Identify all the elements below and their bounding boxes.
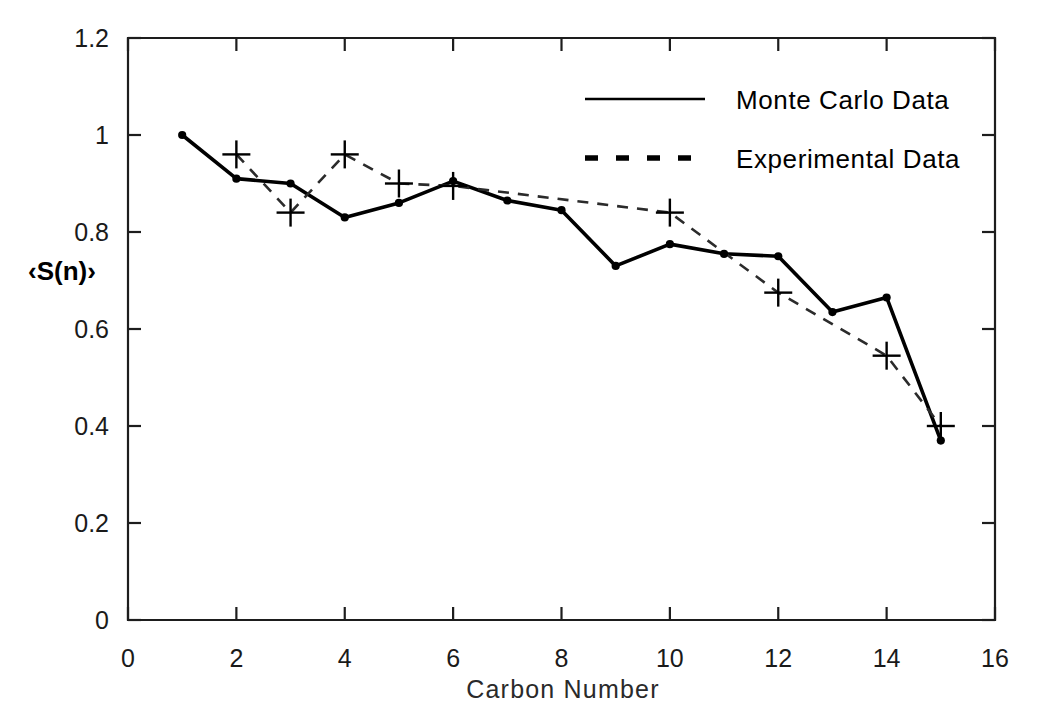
marker-0-0 <box>178 131 186 139</box>
legend-label-experimental: Experimental Data <box>736 144 960 174</box>
y-tick-label-3: 0.6 <box>74 315 109 343</box>
y-tick-label-4: 0.8 <box>74 218 109 246</box>
x-axis-ticks <box>128 38 995 620</box>
chart-canvas: 0246810121416 00.20.40.60.811.2 Carbon N… <box>0 0 1042 726</box>
series-line-0 <box>182 135 941 441</box>
marker-0-3 <box>341 213 349 221</box>
plot-frame <box>128 38 995 620</box>
marker-0-9 <box>666 240 674 248</box>
data-series-layer <box>182 135 941 441</box>
y-tick-label-2: 0.4 <box>74 412 109 440</box>
x-tick-label-5: 10 <box>656 644 684 672</box>
y-axis-tick-labels: 00.20.40.60.811.2 <box>74 24 109 634</box>
chart-figure: 0246810121416 00.20.40.60.811.2 Carbon N… <box>0 0 1042 726</box>
marker-0-2 <box>286 179 294 187</box>
marker-0-7 <box>557 206 565 214</box>
marker-0-1 <box>232 175 240 183</box>
marker-1-7 <box>873 342 901 370</box>
marker-0-4 <box>395 199 403 207</box>
y-tick-label-1: 0.2 <box>74 509 109 537</box>
x-tick-label-1: 2 <box>229 644 243 672</box>
marker-1-4 <box>439 172 467 200</box>
plot-border <box>128 38 995 620</box>
data-marker-layer <box>178 131 955 445</box>
x-tick-label-3: 6 <box>446 644 460 672</box>
marker-1-5 <box>656 199 684 227</box>
x-axis-tick-labels: 0246810121416 <box>121 644 1009 672</box>
y-tick-label-6: 1.2 <box>74 24 109 52</box>
x-tick-label-0: 0 <box>121 644 135 672</box>
series-line-1 <box>236 154 940 426</box>
marker-0-12 <box>828 308 836 316</box>
chart-legend: Monte Carlo Data Experimental Data <box>585 85 960 174</box>
legend-label-monte-carlo: Monte Carlo Data <box>736 85 949 115</box>
y-axis-ticks <box>128 38 995 620</box>
x-tick-label-4: 8 <box>555 644 569 672</box>
y-tick-label-0: 0 <box>95 606 109 634</box>
marker-0-6 <box>503 196 511 204</box>
marker-0-10 <box>720 250 728 258</box>
x-tick-label-2: 4 <box>338 644 352 672</box>
x-tick-label-7: 14 <box>873 644 901 672</box>
marker-1-0 <box>222 140 250 168</box>
marker-1-3 <box>385 170 413 198</box>
x-tick-label-8: 16 <box>981 644 1009 672</box>
marker-0-11 <box>774 252 782 260</box>
x-tick-label-6: 12 <box>764 644 792 672</box>
y-tick-label-5: 1 <box>95 121 109 149</box>
marker-0-13 <box>883 293 891 301</box>
marker-0-8 <box>612 262 620 270</box>
marker-1-6 <box>764 279 792 307</box>
x-axis-title: Carbon Number <box>466 675 659 703</box>
y-axis-title: ‹S(n)› <box>28 256 96 286</box>
